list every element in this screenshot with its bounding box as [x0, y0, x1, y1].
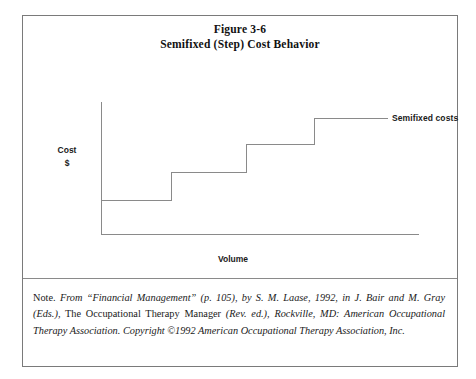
legend-leader-line — [366, 118, 388, 119]
figure-note: Note. From “Financial Management” (p. 10… — [33, 290, 445, 339]
y-axis-title-line-2: $ — [37, 157, 97, 170]
y-axis-title-line-1: Cost — [37, 144, 97, 157]
note-prefix: Note. — [33, 292, 56, 303]
legend-label-semifixed-costs: Semifixed costs — [392, 113, 458, 123]
x-axis-title: Volume — [183, 254, 283, 264]
note-roman-segment-1: The Occupational Therapy Manager — [65, 308, 221, 319]
note-divider — [23, 278, 457, 279]
step-tread-2 — [171, 172, 246, 173]
step-riser-1 — [171, 172, 172, 201]
x-axis-line — [101, 234, 419, 235]
step-tread-3 — [246, 144, 314, 145]
y-axis-line — [101, 102, 102, 235]
step-tread-1 — [101, 200, 171, 201]
figure-border-box: Figure 3-6 Semifixed (Step) Cost Behavio… — [22, 15, 458, 367]
step-tread-4 — [314, 118, 366, 119]
step-riser-2 — [246, 144, 247, 173]
step-riser-3 — [314, 118, 315, 145]
y-axis-title: Cost $ — [37, 144, 97, 170]
step-chart-plot-area: Semifixed costs Cost $ Volume — [23, 16, 459, 278]
